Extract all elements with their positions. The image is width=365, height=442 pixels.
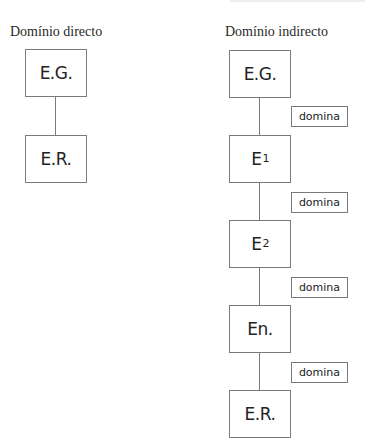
node-e2-label: E	[251, 234, 261, 254]
relation-domina-4: domina	[291, 362, 348, 383]
node-e1-label: E	[251, 149, 261, 169]
indirect-connector-3	[259, 268, 260, 305]
direct-node-er: E.R.	[25, 135, 87, 183]
indirect-node-e2: E2	[229, 220, 291, 268]
indirect-connector-4	[259, 353, 260, 390]
indirect-node-er: E.R.	[229, 390, 291, 438]
indirect-node-en: En.	[229, 305, 291, 353]
top-edge-bar	[230, 0, 365, 2]
indirect-connector-2	[259, 183, 260, 220]
direct-connector	[55, 97, 56, 135]
indirect-node-e1: E1	[229, 135, 291, 183]
indirect-node-eg: E.G.	[229, 50, 291, 98]
direct-node-eg: E.G.	[25, 49, 87, 97]
relation-domina-3: domina	[291, 277, 348, 298]
indirect-connector-1	[259, 98, 260, 135]
relation-domina-2: domina	[291, 192, 348, 213]
direct-domain-heading: Domínio directo	[10, 25, 102, 39]
indirect-domain-heading: Domínio indirecto	[225, 25, 328, 39]
relation-domina-1: domina	[291, 106, 348, 127]
